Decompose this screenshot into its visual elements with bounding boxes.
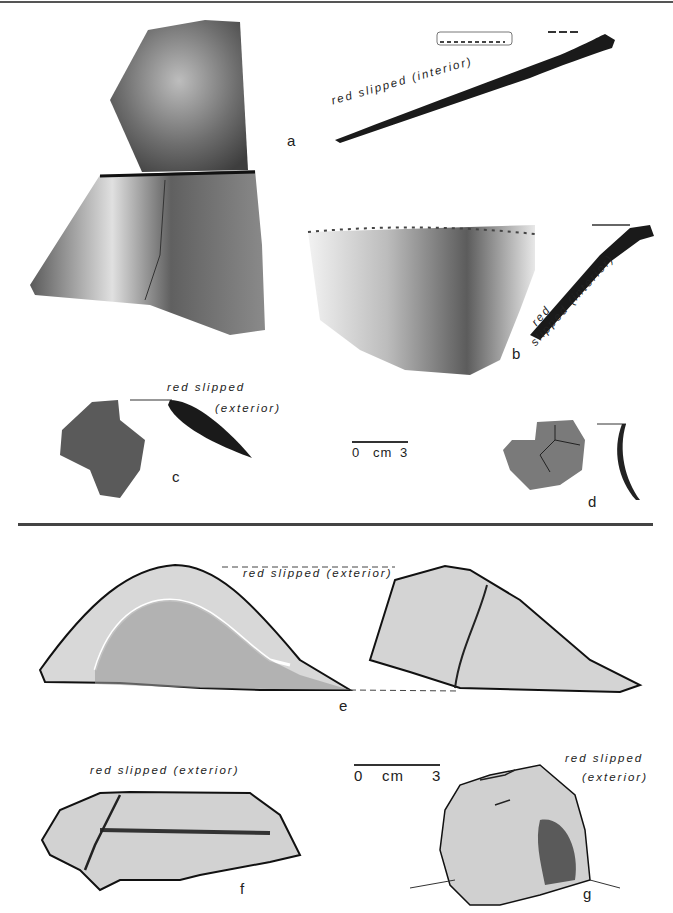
annotation-g-line1: red slipped (565, 752, 643, 764)
figure-label-a: a (287, 132, 295, 149)
scale-start: 0 (352, 445, 360, 460)
annotation-f: red slipped (exterior) (90, 764, 239, 776)
figure-label-c: c (172, 468, 180, 485)
scale-unit: cm (373, 445, 392, 460)
figure-label-e: e (339, 697, 347, 714)
scale-bar-line (354, 764, 440, 766)
scale-bar-top: 0 cm 3 (352, 445, 412, 461)
figure-label-f: f (240, 880, 244, 897)
sherd-photo-a (0, 0, 673, 913)
scale-bar-bottom: 0 cm 3 (354, 767, 444, 785)
scale-end: 3 (400, 445, 408, 460)
figure-label-b: b (512, 345, 520, 362)
annotation-c-line1: red slipped (167, 381, 245, 393)
figure-label-g: g (583, 885, 591, 902)
scale-start: 0 (354, 767, 363, 784)
section-divider (18, 523, 653, 526)
annotation-c-line2: (exterior) (215, 402, 281, 414)
scale-bar-line (352, 441, 408, 443)
scale-end: 3 (432, 767, 441, 784)
annotation-e: red slipped (exterior) (243, 567, 392, 579)
figure-label-d: d (588, 493, 596, 510)
annotation-g-line2: (exterior) (582, 771, 648, 783)
scale-unit: cm (382, 767, 404, 784)
